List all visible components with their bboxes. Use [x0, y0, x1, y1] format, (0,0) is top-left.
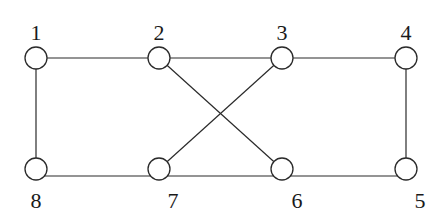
- node-8: [25, 158, 47, 180]
- edges-group: [36, 58, 406, 176]
- node-4: [395, 47, 417, 69]
- node-2: [148, 47, 170, 69]
- node-label-4: 4: [401, 20, 412, 45]
- node-label-8: 8: [31, 188, 42, 213]
- node-label-5: 5: [415, 188, 426, 213]
- graph-diagram: 12345678: [0, 0, 444, 222]
- node-label-3: 3: [277, 20, 288, 45]
- node-1: [25, 47, 47, 69]
- node-label-2: 2: [154, 20, 165, 45]
- node-label-7: 7: [168, 188, 179, 213]
- node-label-6: 6: [292, 188, 303, 213]
- node-7: [148, 158, 170, 180]
- node-5: [395, 158, 417, 180]
- node-6: [271, 158, 293, 180]
- node-label-1: 1: [31, 20, 42, 45]
- labels-group: 12345678: [31, 20, 426, 213]
- node-3: [271, 47, 293, 69]
